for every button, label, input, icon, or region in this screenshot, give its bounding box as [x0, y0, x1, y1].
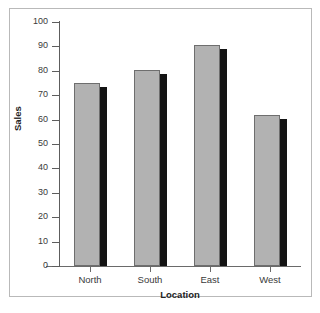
y-axis-tick-label: 80	[20, 66, 48, 75]
bar-face	[134, 70, 160, 266]
bar-shadow	[280, 119, 287, 266]
x-axis-tick	[150, 266, 151, 272]
bar-shadow	[160, 74, 167, 266]
y-axis-tick-label: 50	[20, 139, 48, 148]
bar	[74, 83, 107, 266]
bar	[194, 45, 227, 266]
y-axis-tick	[52, 168, 60, 169]
y-axis-tick	[52, 71, 60, 72]
bar-shadow	[100, 87, 107, 266]
x-axis-tick-label: East	[180, 274, 240, 285]
y-axis-tick-label: 40	[20, 163, 48, 172]
y-axis-tick-label: 60	[20, 115, 48, 124]
y-axis-tick-label: 100	[20, 17, 48, 26]
bar	[134, 70, 167, 266]
x-axis-tick-label: West	[240, 274, 300, 285]
y-axis-tick-label: 90	[20, 41, 48, 50]
bar-face	[194, 45, 220, 266]
y-axis-tick	[52, 22, 60, 23]
y-axis-tick	[52, 120, 60, 121]
x-axis-tick	[210, 266, 211, 272]
bar	[254, 115, 287, 266]
bar-chart-figure: 0102030405060708090100 NorthSouthEastWes…	[0, 0, 320, 313]
bar-face	[74, 83, 100, 266]
y-axis-tick-label: 70	[20, 90, 48, 99]
y-axis-title: Sales	[12, 106, 23, 131]
x-axis-tick-label: South	[120, 274, 180, 285]
y-axis-tick	[52, 46, 60, 47]
x-axis-tick-label: North	[60, 274, 120, 285]
y-axis-tick-label: 10	[20, 237, 48, 246]
y-axis-tick	[52, 266, 60, 267]
x-axis-tick	[270, 266, 271, 272]
x-axis-line	[46, 266, 301, 267]
y-axis-tick	[52, 144, 60, 145]
y-axis-tick	[52, 193, 60, 194]
bar-shadow	[220, 49, 227, 266]
y-axis-tick	[52, 217, 60, 218]
y-axis-tick-label: 20	[20, 212, 48, 221]
y-axis-tick-label: 30	[20, 188, 48, 197]
x-axis-tick	[90, 266, 91, 272]
y-axis-tick	[52, 242, 60, 243]
y-axis-tick-label: 0	[20, 261, 48, 270]
x-axis-title: Location	[60, 289, 300, 300]
bar-face	[254, 115, 280, 266]
y-axis-tick	[52, 95, 60, 96]
